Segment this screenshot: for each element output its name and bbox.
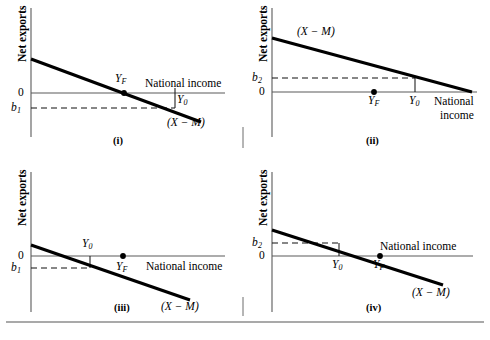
panel-ii-y0-subscript: 0 bbox=[416, 99, 420, 108]
panel-iv-y-axis-label: Net exports bbox=[258, 169, 270, 226]
panel-iv-x-axis-label: National income bbox=[380, 241, 456, 253]
panel-ii-xm-curve bbox=[272, 38, 472, 92]
panel-i-x-axis-label: National income bbox=[145, 78, 221, 90]
panel-iv-yf-letter: Y bbox=[373, 258, 379, 270]
panel-i-yf-subscript: F bbox=[122, 77, 127, 86]
panel-iii-yf-letter: Y bbox=[116, 260, 122, 272]
panel-iv-curve-label: (X − M) bbox=[412, 287, 450, 299]
panel-iv-xm-curve bbox=[272, 230, 443, 285]
panel-i-yf-letter: Y bbox=[115, 72, 121, 84]
panel-iii-x-axis-label: National income bbox=[146, 261, 222, 273]
panel-i-b1-letter: b bbox=[11, 101, 17, 113]
panel-ii-yf-letter: Y bbox=[368, 94, 374, 106]
panel-iv-y0-subscript: 0 bbox=[339, 263, 343, 272]
panel-i-yf-label: YF bbox=[115, 73, 126, 86]
panel-ii-y0-letter: Y bbox=[409, 94, 415, 106]
panel-iv-yf-label: YF bbox=[373, 259, 384, 272]
panel-i-curve-label: (X − M) bbox=[167, 117, 205, 129]
panel-iii-zero-label: 0 bbox=[18, 250, 24, 262]
panel-iv-yf-subscript: F bbox=[380, 263, 385, 272]
panel-i-zero-label: 0 bbox=[18, 87, 24, 99]
panel-ii-b2-letter: b bbox=[252, 71, 258, 83]
panel-iii-graphics bbox=[31, 172, 225, 312]
panel-iv-b2-label: b2 bbox=[252, 237, 262, 250]
panel-i-xm-curve bbox=[31, 59, 201, 122]
panel-i-b1-label: b1 bbox=[11, 102, 21, 115]
panel-ii-x-axis-label-line1: National bbox=[434, 96, 474, 108]
panel-iii-b1-letter: b bbox=[11, 261, 17, 273]
panel-iii-xm-curve bbox=[31, 245, 190, 300]
panel-ii-x-axis-label-line2: income bbox=[440, 110, 474, 122]
panel-iv-zero-label: 0 bbox=[259, 250, 265, 262]
panel-ii-y0-label: Y0 bbox=[409, 95, 420, 108]
panel-iv-y0-label: Y0 bbox=[332, 259, 343, 272]
panel-iii-yf-dot bbox=[120, 253, 126, 259]
panel-ii-y-axis-label: Net exports bbox=[258, 5, 270, 62]
panel-ii-yf-label: YF bbox=[368, 95, 379, 108]
panel-ii-b2-subscript: 2 bbox=[258, 76, 262, 85]
panel-iii-b1-label: b1 bbox=[11, 262, 21, 275]
panel-i-tag: (i) bbox=[113, 136, 123, 147]
panel-i-b1-subscript: 1 bbox=[17, 106, 21, 115]
panel-iv-b2-subscript: 2 bbox=[258, 241, 262, 250]
panel-iii-y0-letter: Y bbox=[82, 237, 88, 249]
panel-iii-y0-label: Y0 bbox=[82, 238, 93, 251]
panel-iii-yf-subscript: F bbox=[123, 265, 128, 274]
panel-iv-y0-letter: Y bbox=[332, 258, 338, 270]
panel-ii-curve-label: (X − M) bbox=[297, 26, 335, 38]
panel-i-y-axis-label: Net exports bbox=[17, 5, 29, 62]
panel-i-yf-dot bbox=[121, 90, 127, 96]
panel-i-y0-subscript: 0 bbox=[184, 98, 188, 107]
panel-ii-tag: (ii) bbox=[366, 136, 379, 147]
panel-i-y0-label: Y0 bbox=[177, 94, 188, 107]
figure-container: Net exports 0 b1 YF Y0 National income (… bbox=[0, 0, 490, 340]
panel-ii-yf-subscript: F bbox=[375, 99, 380, 108]
panel-iii-curve-label: (X − M) bbox=[161, 301, 199, 313]
panel-iii-y0-subscript: 0 bbox=[89, 242, 93, 251]
panel-iii-y-axis-label: Net exports bbox=[17, 169, 29, 226]
panel-ii-zero-label: 0 bbox=[259, 86, 265, 98]
panel-iii-b1-subscript: 1 bbox=[17, 266, 21, 275]
panel-i-y0-letter: Y bbox=[177, 93, 183, 105]
panel-ii-b2-label: b2 bbox=[252, 72, 262, 85]
panel-iv-tag: (iv) bbox=[366, 303, 381, 314]
panel-iii-tag: (iii) bbox=[114, 303, 130, 314]
panel-iii-yf-label: YF bbox=[116, 261, 127, 274]
panel-iv-b2-letter: b bbox=[252, 236, 258, 248]
